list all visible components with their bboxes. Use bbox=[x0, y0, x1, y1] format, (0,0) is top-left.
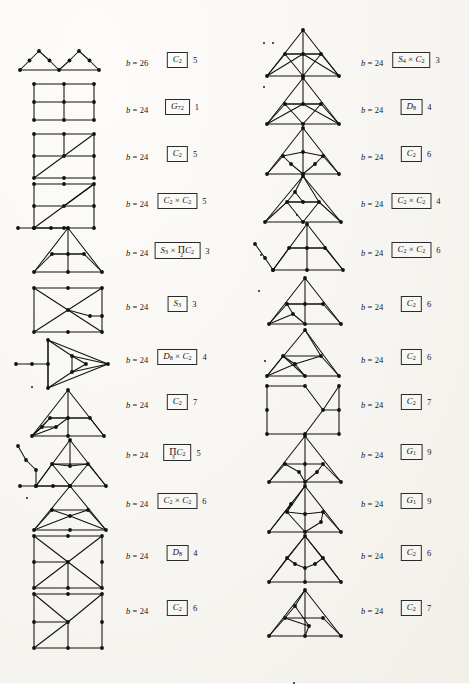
bandwidth-label: b = 24 bbox=[361, 450, 383, 460]
group-cell: C26 bbox=[167, 600, 197, 616]
graph-figure bbox=[12, 480, 124, 534]
graph-figure bbox=[12, 530, 124, 594]
graph-figure bbox=[247, 74, 359, 130]
group-cell: Π3C25 bbox=[163, 444, 201, 461]
group-cell: C2 × C25 bbox=[157, 193, 206, 209]
group-cell: C2 × C26 bbox=[157, 493, 206, 509]
group-symbol: D8 bbox=[167, 545, 189, 561]
group-symbol: C2 × C2 bbox=[391, 242, 431, 258]
group-cell: G19 bbox=[401, 493, 432, 509]
row-count: 6 bbox=[427, 352, 431, 362]
graph-figure bbox=[247, 482, 359, 538]
graph-figure bbox=[12, 386, 124, 442]
group-symbol: C2 × C2 bbox=[157, 193, 197, 209]
group-symbol: C2 bbox=[401, 545, 422, 561]
bandwidth-label: b = 24 bbox=[361, 606, 383, 616]
group-cell: C27 bbox=[401, 600, 431, 616]
bandwidth-label: b = 24 bbox=[361, 302, 383, 312]
bandwidth-label: b = 24 bbox=[361, 400, 383, 410]
group-cell: S33 bbox=[168, 296, 197, 312]
row-count: 7 bbox=[427, 397, 431, 407]
graph-figure bbox=[247, 380, 359, 440]
bandwidth-label: b = 24 bbox=[361, 355, 383, 365]
bandwidth-label: b = 24 bbox=[361, 58, 383, 68]
left-column: b = 26C25b = 24G721b = 24C25b = 24C2 × C… bbox=[0, 0, 234, 683]
row-count: 3 bbox=[205, 246, 209, 256]
bandwidth-label: b = 24 bbox=[126, 551, 148, 561]
group-symbol: C2 × C2 bbox=[391, 193, 431, 209]
row-count: 7 bbox=[193, 397, 197, 407]
group-symbol: C2 × C2 bbox=[157, 493, 197, 509]
group-symbol: D8 × C2 bbox=[157, 349, 197, 365]
bandwidth-label: b = 24 bbox=[361, 248, 383, 258]
row-count: 4 bbox=[203, 352, 207, 362]
group-cell: D84 bbox=[401, 99, 432, 115]
row-count: 6 bbox=[202, 496, 206, 506]
group-cell: G721 bbox=[165, 99, 199, 115]
group-cell: C25 bbox=[167, 146, 197, 162]
graph-figure bbox=[12, 588, 124, 654]
row-count: 9 bbox=[427, 496, 431, 506]
row-count: 6 bbox=[427, 548, 431, 558]
bandwidth-label: b = 24 bbox=[126, 400, 148, 410]
row-count: 4 bbox=[427, 102, 431, 112]
graph-figure bbox=[12, 282, 124, 338]
group-symbol: C2 bbox=[401, 600, 422, 616]
row-count: 5 bbox=[202, 196, 206, 206]
group-symbol: G72 bbox=[165, 99, 190, 115]
row-count: 7 bbox=[427, 603, 431, 613]
graph-figure bbox=[12, 78, 124, 130]
row-count: 9 bbox=[427, 447, 431, 457]
group-cell: G19 bbox=[401, 444, 432, 460]
group-symbol: C2 bbox=[167, 52, 188, 68]
row-count: 3 bbox=[192, 299, 196, 309]
bandwidth-label: b = 24 bbox=[126, 105, 148, 115]
group-symbol: S4 × C2 bbox=[392, 52, 430, 68]
row-count: 5 bbox=[197, 448, 201, 458]
group-symbol: C2 bbox=[401, 349, 422, 365]
bandwidth-label: b = 24 bbox=[126, 499, 148, 509]
group-symbol: C2 bbox=[167, 146, 188, 162]
group-cell: S3 × Π2C23 bbox=[155, 242, 210, 259]
bandwidth-label: b = 24 bbox=[126, 606, 148, 616]
group-cell: C2 × C24 bbox=[391, 193, 440, 209]
row-count: 5 bbox=[193, 55, 197, 65]
graph-figure bbox=[247, 532, 359, 588]
group-symbol: C2 bbox=[167, 600, 188, 616]
group-cell: C27 bbox=[167, 394, 197, 410]
group-symbol: C2 bbox=[401, 296, 422, 312]
bandwidth-label: b = 24 bbox=[361, 105, 383, 115]
row-count: 3 bbox=[436, 55, 440, 65]
bandwidth-label: b = 24 bbox=[361, 499, 383, 509]
row-count: 1 bbox=[195, 102, 199, 112]
group-cell: C25 bbox=[167, 52, 197, 68]
bandwidth-label: b = 24 bbox=[126, 152, 148, 162]
bandwidth-label: b = 24 bbox=[361, 199, 383, 209]
row-count: 6 bbox=[193, 603, 197, 613]
group-symbol: Π3C2 bbox=[163, 444, 191, 461]
group-cell: D84 bbox=[167, 545, 198, 561]
group-symbol: G1 bbox=[401, 444, 423, 460]
bandwidth-label: b = 24 bbox=[361, 152, 383, 162]
graph-figure bbox=[247, 326, 359, 382]
group-cell: C2 × C26 bbox=[391, 242, 440, 258]
graph-figure bbox=[247, 432, 359, 488]
bandwidth-label: b = 24 bbox=[126, 302, 148, 312]
graph-figure bbox=[247, 274, 359, 330]
bandwidth-label: b = 26 bbox=[126, 58, 148, 68]
graph-figure bbox=[247, 220, 359, 276]
graph-figure bbox=[12, 30, 124, 76]
graph-figure bbox=[12, 224, 124, 278]
bandwidth-label: b = 24 bbox=[126, 355, 148, 365]
group-symbol: C2 bbox=[167, 394, 188, 410]
group-symbol: S3 bbox=[168, 296, 188, 312]
row-count: 6 bbox=[427, 299, 431, 309]
group-cell: C26 bbox=[401, 146, 431, 162]
group-symbol: C2 bbox=[401, 394, 422, 410]
group-symbol: S3 × Π2C2 bbox=[155, 242, 201, 259]
group-cell: C27 bbox=[401, 394, 431, 410]
row-count: 6 bbox=[436, 245, 440, 255]
group-symbol: C2 bbox=[401, 146, 422, 162]
right-column: b = 24S4 × C23b = 24D84b = 24C26b = 24C2… bbox=[235, 0, 469, 683]
